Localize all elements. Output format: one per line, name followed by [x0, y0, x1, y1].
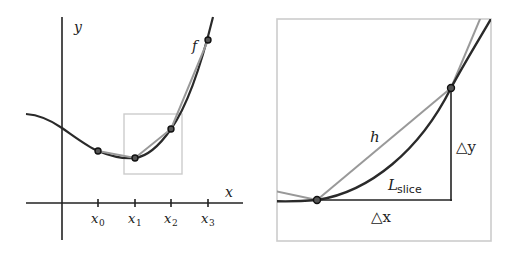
tick-label-x0: x 0 [91, 211, 105, 228]
tick-label-x3: x 3 [201, 211, 215, 228]
diagram-canvas: y x f x 0 x 1 x 2 x 3 [0, 0, 517, 253]
svg-text:0: 0 [99, 218, 105, 228]
tick-label-x1: x 1 [128, 211, 142, 228]
secant-label: h [370, 128, 380, 146]
y-axis-label: y [73, 19, 83, 35]
tick-label-x2: x 2 [164, 211, 178, 228]
curve-f [26, 17, 213, 158]
point-end [448, 85, 455, 92]
svg-text:1: 1 [136, 218, 142, 228]
svg-text:3: 3 [209, 218, 215, 228]
x-axis-label: x [225, 184, 233, 200]
point-x1 [132, 155, 138, 161]
point-start [314, 197, 321, 204]
point-x0 [95, 148, 101, 154]
delta-x-label: △x [371, 208, 392, 226]
svg-text:slice: slice [397, 183, 422, 196]
point-x3 [205, 37, 211, 43]
svg-text:x: x [91, 211, 99, 226]
svg-text:2: 2 [172, 218, 178, 228]
svg-text:x: x [201, 211, 209, 226]
secant-polyline [98, 40, 208, 158]
svg-text:x: x [128, 211, 136, 226]
right-panel: h L slice △y △x [270, 12, 495, 241]
delta-y-label: △y [456, 138, 477, 156]
point-x2 [168, 126, 174, 132]
left-panel: y x f x 0 x 1 x 2 x 3 [26, 17, 243, 240]
svg-text:x: x [164, 211, 172, 226]
function-label: f [191, 38, 200, 54]
